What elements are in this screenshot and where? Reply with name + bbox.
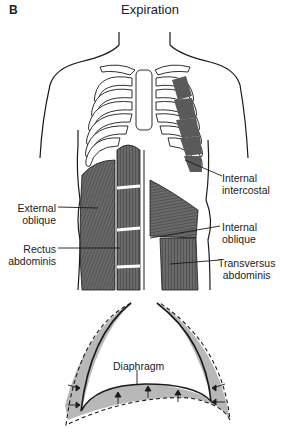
label-external-oblique: External oblique [10, 202, 56, 226]
abdominal-muscles [80, 145, 198, 290]
label-internal-oblique: Internal oblique [222, 221, 257, 245]
label-internal-intercostal: Internal intercostal [222, 172, 270, 196]
external-oblique-muscle [80, 160, 115, 290]
transversus-abdominis-muscle [160, 238, 198, 290]
label-rectus-abdominis: Rectus abdominis [8, 243, 56, 267]
label-diaphragm: Diaphragm [113, 360, 164, 372]
internal-oblique-muscle [150, 180, 198, 238]
label-transversus-abdominis: Transversus abdominis [218, 257, 275, 281]
